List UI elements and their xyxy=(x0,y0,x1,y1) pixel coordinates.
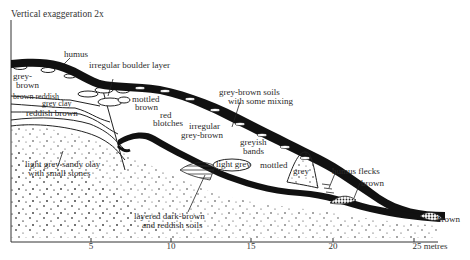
label-grey-clay: grey clay xyxy=(42,99,72,108)
label-irregular-boulder-layer: irregular boulder layer xyxy=(89,61,170,70)
label-humus-flecks: humus flecks xyxy=(332,167,380,176)
label-sandy-clay-2: with small stones xyxy=(28,169,91,178)
diagram-title: Vertical exaggeration 2x xyxy=(11,9,104,19)
label-humus: humus xyxy=(64,50,88,59)
layered-lens xyxy=(180,163,215,180)
label-brown-right: brown xyxy=(437,215,460,224)
label-layered-2: and reddish soils xyxy=(142,221,203,230)
humus-flecks xyxy=(322,184,334,193)
label-greyish-bands-2: bands xyxy=(243,147,264,156)
label-reddish-brown: reddish brown xyxy=(26,109,78,118)
tick-10: 10 xyxy=(167,241,176,251)
label-light-grey: light grey xyxy=(216,160,251,169)
tick-25-metres: 25 metres xyxy=(412,241,447,251)
tick-20: 20 xyxy=(329,241,338,251)
label-grey-brown-left-2: brown xyxy=(16,81,39,90)
label-irregular-grey-brown-2: grey-brown xyxy=(181,131,223,140)
label-grey-brown-soils-2: with some mixing xyxy=(228,97,293,106)
label-red-blotches-2: blotches xyxy=(153,119,183,128)
soil-profile-diagram xyxy=(0,0,470,260)
tick-15: 15 xyxy=(247,241,256,251)
label-grey: grey xyxy=(293,167,309,176)
label-brown-mid: brown xyxy=(361,179,384,188)
tick-5: 5 xyxy=(89,241,94,251)
label-mottled-brown-2: brown xyxy=(135,103,158,112)
label-mottled: mottled xyxy=(260,161,288,170)
